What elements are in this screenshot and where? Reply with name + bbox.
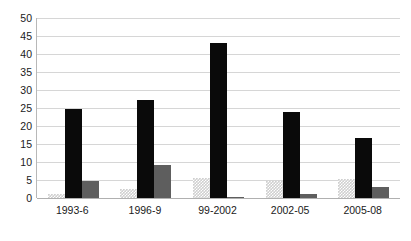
- y-tick-label-5: 5: [0, 175, 32, 186]
- bar-1996-9-series-2: [137, 100, 154, 198]
- plot-area: [36, 18, 400, 198]
- bar-chart: 05101520253035404550 1993-61996-999-2002…: [0, 0, 411, 241]
- bar-2002-05-series-3: [300, 194, 317, 198]
- bar-2002-05-series-2: [283, 112, 300, 198]
- x-tick-label-1993-6: 1993-6: [56, 205, 89, 216]
- bars-layer: [37, 18, 400, 198]
- bar-group-1993-6: [37, 18, 110, 198]
- bar-1993-6-series-3: [82, 181, 99, 198]
- y-tick-label-40: 40: [0, 49, 32, 60]
- y-tick-label-0: 0: [0, 193, 32, 204]
- bar-2005-08-series-2: [355, 138, 372, 198]
- bar-group-99-2002: [182, 18, 255, 198]
- bar-99-2002-series-3: [227, 197, 244, 198]
- x-tick-label-99-2002: 99-2002: [198, 205, 237, 216]
- bar-1993-6-series-2: [65, 109, 82, 198]
- bar-1993-6-series-1: [48, 194, 65, 198]
- x-tick-label-1996-9: 1996-9: [129, 205, 162, 216]
- bar-99-2002-series-2: [210, 43, 227, 198]
- y-tick-label-20: 20: [0, 121, 32, 132]
- x-tick-label-2002-05: 2002-05: [271, 205, 310, 216]
- y-tick-label-45: 45: [0, 31, 32, 42]
- bar-1996-9-series-1: [120, 189, 137, 198]
- y-tick-label-15: 15: [0, 139, 32, 150]
- x-tick-label-2005-08: 2005-08: [343, 205, 382, 216]
- bar-1996-9-series-3: [154, 165, 171, 198]
- y-tick-label-30: 30: [0, 85, 32, 96]
- bar-2005-08-series-3: [372, 187, 389, 198]
- bar-2002-05-series-1: [266, 181, 283, 198]
- x-axis: 1993-61996-999-20022002-052005-08: [36, 205, 400, 225]
- y-axis: 05101520253035404550: [0, 18, 32, 198]
- bar-group-2005-08: [327, 18, 400, 198]
- y-tick-label-35: 35: [0, 67, 32, 78]
- y-tick-label-50: 50: [0, 13, 32, 24]
- bar-group-2002-05: [255, 18, 328, 198]
- y-tick-label-10: 10: [0, 157, 32, 168]
- gridline-0: [37, 198, 400, 199]
- bar-group-1996-9: [110, 18, 183, 198]
- bar-2005-08-series-1: [338, 179, 355, 198]
- y-tick-label-25: 25: [0, 103, 32, 114]
- bar-99-2002-series-1: [193, 178, 210, 198]
